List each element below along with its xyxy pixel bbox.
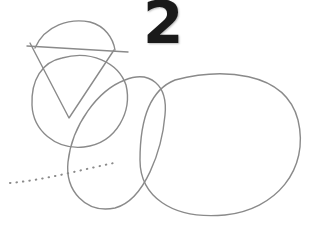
head-circle xyxy=(35,21,115,50)
dotted-tail-line xyxy=(10,163,114,183)
sketch-drawing xyxy=(0,0,316,225)
guide-triangle xyxy=(30,43,114,118)
